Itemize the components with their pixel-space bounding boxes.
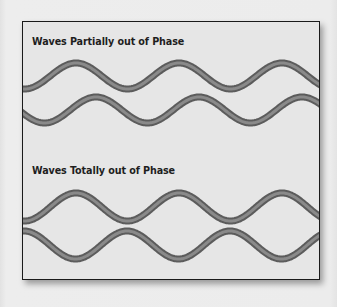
diagram-panel: Waves Partially out of Phase Waves Total… — [22, 21, 320, 280]
page: Waves Partially out of Phase Waves Total… — [0, 0, 337, 307]
waves-illustration — [23, 22, 319, 279]
wave-d-outline — [23, 231, 319, 259]
wave-c-outline — [23, 193, 319, 221]
wave-a-outline — [23, 63, 319, 89]
